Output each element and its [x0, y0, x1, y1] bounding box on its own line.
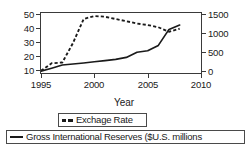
y-axis-left-tick-40: 40: [12, 24, 34, 34]
series-line-reserves: [41, 25, 180, 71]
x-axis-tick-2000: 2000: [77, 80, 111, 90]
legend-gross-international-reserves[interactable]: Gross International Reserves ($U.S. mill…: [6, 130, 245, 144]
y-axis-left-tick-10: 10: [12, 66, 34, 76]
y-axis-right-tickmark-1500: [202, 14, 206, 15]
x-axis-tickmark-2005: [148, 74, 149, 78]
legend-label-reserves: Gross International Reserves ($U.S. mill…: [26, 132, 202, 142]
x-axis-tickmark-1995: [41, 74, 42, 78]
y-axis-right-tick-1000: 1000: [208, 29, 228, 39]
y-axis-right-tickmark-0: [202, 71, 206, 72]
y-axis-right-tickmark-1000: [202, 33, 206, 34]
y-axis-right-tick-1500: 1500: [208, 10, 228, 20]
chart-lines-svg: [41, 13, 201, 73]
solid-line-swatch-icon: [10, 136, 23, 138]
y-axis-left-tick-50: 50: [12, 10, 34, 20]
legend-exchange-rate[interactable]: Exchage Rate: [58, 113, 147, 127]
y-axis-left-tick-20: 20: [12, 52, 34, 62]
chart-figure: 50 40 30 20 10 1500 1000 500 0 1995 2000…: [0, 0, 248, 149]
plot-area: [40, 12, 202, 74]
x-axis-tick-2005: 2005: [131, 80, 165, 90]
y-axis-right-tick-500: 500: [208, 48, 223, 58]
x-axis-tick-2010: 2010: [184, 80, 218, 90]
y-axis-left-tick-30: 30: [12, 38, 34, 48]
y-axis-right-tickmark-500: [202, 52, 206, 53]
x-axis-title: Year: [0, 97, 248, 108]
dashed-line-swatch-icon: [62, 119, 73, 122]
legend-label-exchange-rate: Exchage Rate: [76, 115, 133, 125]
y-axis-right-tick-0: 0: [208, 67, 213, 77]
x-axis-tickmark-2010: [201, 74, 202, 78]
x-axis-tick-1995: 1995: [24, 80, 58, 90]
x-axis-tickmark-2000: [94, 74, 95, 78]
